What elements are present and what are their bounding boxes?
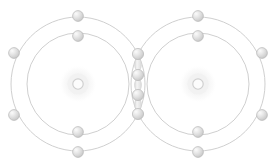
electron-left-outer-top xyxy=(73,11,84,22)
left-nucleus xyxy=(59,65,97,103)
atom-right-group xyxy=(131,11,267,158)
bohr-model-diagram xyxy=(0,0,276,168)
shared-electron-2 xyxy=(132,69,143,80)
electron-right-inner-bottom xyxy=(193,127,204,138)
right-nucleus-ring-icon xyxy=(193,79,203,89)
shared-bond-group xyxy=(132,48,143,119)
electron-right-inner-top xyxy=(193,31,204,42)
bond-link-1 xyxy=(135,58,142,70)
shared-electron-1 xyxy=(132,48,143,59)
electron-right-outer-bottom xyxy=(193,147,204,158)
shared-electron-4 xyxy=(132,108,143,119)
electron-left-outer-upper-left xyxy=(9,48,20,59)
electron-right-outer-lower-right xyxy=(257,110,268,121)
left-nucleus-ring-icon xyxy=(73,79,83,89)
shared-electron-3 xyxy=(132,89,143,100)
electron-right-outer-upper-right xyxy=(257,48,268,59)
electron-left-outer-bottom xyxy=(73,147,84,158)
electron-left-outer-lower-left xyxy=(9,110,20,121)
electron-left-inner-bottom xyxy=(73,127,84,138)
electron-right-outer-top xyxy=(193,11,204,22)
atom-left-group xyxy=(9,11,145,158)
diagram-canvas xyxy=(0,0,276,168)
right-nucleus xyxy=(179,65,217,103)
electron-left-inner-top xyxy=(73,31,84,42)
